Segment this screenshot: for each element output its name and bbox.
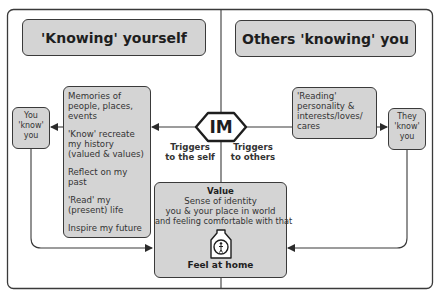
self-item-inspire: Inspire my future [68,223,146,233]
others-reading-box: 'Reading' personality & interests/loves/… [292,87,377,139]
others-reading-text: 'Reading' personality & interests/loves/… [297,91,363,131]
value-line-1: Sense of identity [155,196,286,206]
self-item-reflect: Reflect on my past [68,167,146,187]
im-node: IM [196,115,246,139]
self-item-read: 'Read' my (present) life [68,195,146,215]
header-knowing-yourself: 'Knowing' yourself [22,19,206,56]
self-item-memories: Memories of people, places, events [68,91,146,121]
triggers-to-self-label: Triggers to the self [160,142,220,162]
header-others-knowing-you: Others 'knowing' you [235,20,416,57]
value-line-2: you & your place in world [155,206,286,216]
value-title: Value [155,186,286,196]
they-know-you-box: They 'know' you [388,108,426,150]
self-item-history: 'Know' recreate my history (valued & val… [68,129,146,159]
feel-at-home-label: Feel at home [155,260,286,270]
value-line-3: and feeling comfortable with that [155,216,286,226]
home-person-icon [155,226,286,260]
im-label: IM [209,117,232,137]
header-left-label: 'Knowing' yourself [41,30,187,46]
value-box: Value Sense of identity you & your place… [154,182,287,278]
you-know-you-box: You 'know' you [12,107,50,149]
header-right-label: Others 'knowing' you [242,31,409,47]
triggers-to-others-label: Triggers to others [225,142,281,162]
knowing-yourself-box: Memories of people, places, events 'Know… [63,86,151,238]
